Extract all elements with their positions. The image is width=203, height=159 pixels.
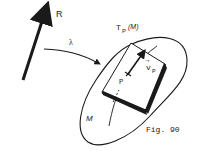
real-line-label: R [56, 9, 63, 19]
tangent-space-label: T [116, 23, 121, 32]
tangent-space-argument: (M) [128, 23, 139, 31]
tangent-vector-subscript: P [152, 68, 156, 75]
tangent-plane [102, 43, 167, 115]
point-p-label: P [119, 78, 123, 86]
real-line-arrow [23, 12, 45, 80]
tangent-vector-label: v [146, 63, 151, 72]
map-lambda-label: λ [69, 38, 73, 47]
map-lambda-arrow [44, 49, 98, 63]
tangent-space-subscript: P [122, 28, 126, 34]
manifold-label: M [86, 114, 93, 123]
figure-caption: Fig. 90 [146, 125, 180, 134]
manifold-tangent-space-diagram: R λ P → v P T P (M) M Fig. 90 [0, 0, 203, 159]
